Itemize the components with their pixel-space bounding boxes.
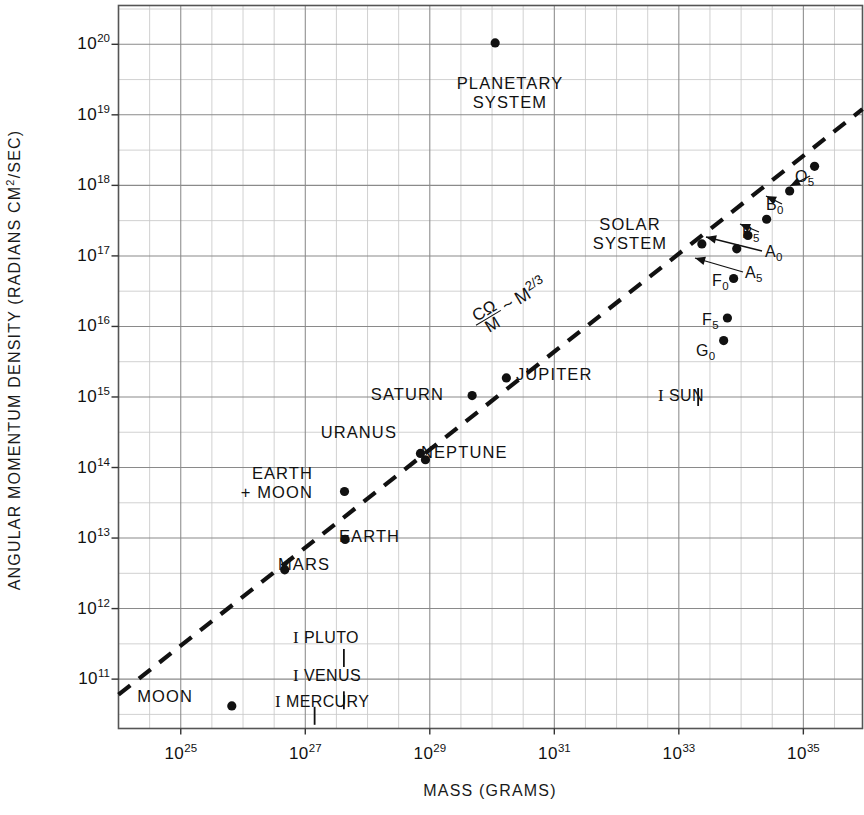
y-tick-label-17: 1017 — [42, 244, 110, 266]
label-pluto: I PLUTO — [293, 629, 359, 646]
y-tick-label-12: 1012 — [42, 597, 110, 619]
label-earth: EARTH — [339, 528, 400, 545]
label-f5: F5 — [702, 311, 719, 334]
label-venus: I VENUS — [293, 667, 361, 684]
y-tick-label-13: 1013 — [42, 526, 110, 548]
label-g0: G0 — [696, 342, 715, 365]
x-axis-title: MASS (GRAMS) — [118, 782, 862, 800]
label-a0: A0 — [765, 243, 782, 266]
label-saturn: SATURN — [371, 386, 444, 403]
label-moon: MOON — [137, 688, 193, 705]
x-tick-label-35: 1035 — [758, 742, 848, 764]
label-o5: O5 — [795, 168, 814, 191]
y-tick-label-16: 1016 — [42, 314, 110, 336]
minor-gridlines — [119, 6, 863, 729]
angular-momentum-density-vs-mass-chart: ANGULAR MOMENTUM DENSITY (RADIANS CM2/SE… — [0, 0, 864, 815]
label-b5: B5 — [742, 224, 759, 247]
y-tick-label-14: 1014 — [42, 456, 110, 478]
label-mars: MARS — [278, 556, 330, 573]
trend-line-dashed — [119, 109, 863, 694]
label-neptune: NEPTUNE — [421, 444, 508, 461]
label-planetary-system: PLANETARYSYSTEM — [457, 74, 564, 112]
label-jupiter: JUPITER — [516, 366, 592, 383]
label-sun: I SUN — [658, 387, 704, 404]
y-tick-label-11: 1011 — [42, 667, 110, 689]
label-uranus: URANUS — [321, 424, 397, 441]
x-tick-label-27: 1027 — [260, 742, 350, 764]
x-tick-label-29: 1029 — [385, 742, 475, 764]
y-tick-label-20: 1020 — [42, 32, 110, 54]
label-mercury: I MERCURY — [275, 693, 369, 710]
major-gridlines — [119, 6, 863, 729]
y-axis-title: ANGULAR MOMENTUM DENSITY (RADIANS CM2/SE… — [4, 0, 32, 740]
plot-frame — [119, 6, 863, 729]
label-a5: A5 — [745, 264, 762, 287]
x-tick-label-33: 1033 — [634, 742, 724, 764]
label-earth-moon: EARTH+ MOON — [241, 464, 313, 502]
y-tick-label-15: 1015 — [42, 385, 110, 407]
y-tick-label-18: 1018 — [42, 173, 110, 195]
y-tick-label-19: 1019 — [42, 103, 110, 125]
label-f0: F0 — [712, 272, 729, 295]
label-b0: B0 — [766, 196, 783, 219]
label-solar-system: SOLARSYSTEM — [593, 215, 667, 253]
plot-canvas — [0, 0, 864, 815]
x-tick-label-25: 1025 — [136, 742, 226, 764]
x-tick-label-31: 1031 — [509, 742, 599, 764]
